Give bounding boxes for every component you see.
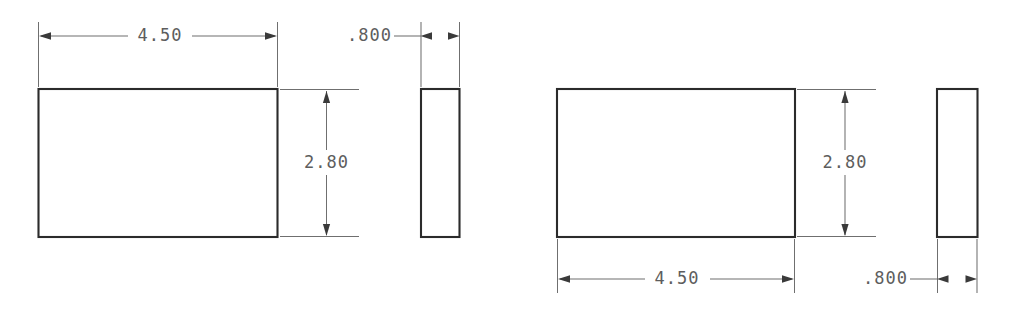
arrow-inward-left-icon: [937, 275, 949, 283]
width-dimension-450-top: 4.50: [39, 22, 278, 87]
arrow-inward-left-icon: [421, 32, 433, 40]
arrow-down-icon: [841, 91, 848, 103]
right-drawing-group: 2.80 4.50 .800: [557, 89, 978, 293]
arrow-right-icon: [265, 32, 277, 40]
thickness-dimension-800-top: .800: [347, 22, 460, 87]
width-dimension-450-bottom: 4.50: [558, 239, 795, 293]
arrow-down-icon: [323, 91, 330, 103]
front-view-rectangle: [557, 89, 795, 237]
arrow-up-icon: [841, 224, 848, 236]
dimension-label-thickness: .800: [863, 268, 908, 288]
arrow-left-icon: [558, 275, 570, 283]
dimension-label-height: 2.80: [823, 152, 868, 172]
technical-drawing-sheet: 4.50 .800 2: [0, 0, 1018, 316]
dimension-label-width: 4.50: [655, 268, 700, 288]
left-drawing-group: 4.50 .800 2: [39, 22, 460, 237]
arrow-inward-right-icon: [966, 275, 978, 283]
thickness-dimension-800-bottom: .800: [863, 239, 977, 293]
side-view-rectangle: [421, 89, 460, 237]
front-view-rectangle: [39, 89, 278, 237]
arrow-left-icon: [39, 32, 51, 40]
dimension-label-width: 4.50: [138, 25, 183, 45]
dimension-label-height: 2.80: [304, 152, 349, 172]
arrow-up-icon: [323, 224, 330, 236]
height-dimension-280-right: 2.80: [280, 90, 359, 237]
height-dimension-280-right: 2.80: [797, 90, 876, 237]
arrow-right-icon: [782, 275, 794, 283]
dimension-label-thickness: .800: [347, 25, 392, 45]
arrow-inward-right-icon: [448, 32, 460, 40]
side-view-rectangle: [937, 89, 978, 237]
drawing-canvas: 4.50 .800 2: [0, 0, 1018, 316]
